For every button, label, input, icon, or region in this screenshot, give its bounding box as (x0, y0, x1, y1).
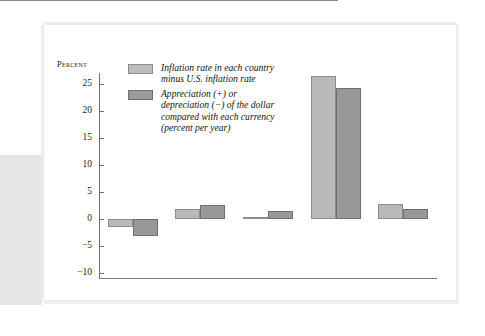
y-tick-label: 25 (66, 78, 92, 88)
y-tick-label: −5 (66, 240, 92, 250)
legend-entry-appreciation: Appreciation (+) or depreciation (−) of … (128, 88, 328, 134)
legend-entry-inflation: Inflation rate in each country minus U.S… (128, 62, 328, 85)
y-tick-mark (99, 192, 104, 193)
bar (200, 205, 225, 219)
bar (403, 209, 428, 219)
bar (378, 204, 403, 219)
light-gray-swatch-icon (128, 64, 153, 74)
y-axis-title: Percent (57, 59, 87, 69)
bar (108, 219, 133, 227)
y-tick-label: 5 (66, 186, 92, 196)
y-axis-spine (99, 73, 100, 279)
legend-label-appreciation: Appreciation (+) or depreciation (−) of … (161, 88, 275, 134)
y-tick-mark (99, 138, 104, 139)
y-tick-mark (99, 273, 104, 274)
bar (175, 209, 200, 219)
x-axis-line (99, 278, 437, 279)
y-tick-mark (99, 246, 104, 247)
legend-label-inflation: Inflation rate in each country minus U.S… (161, 62, 274, 85)
y-tick-mark (99, 111, 104, 112)
zero-baseline (0, 0, 338, 1)
y-tick-label: 10 (66, 159, 92, 169)
dark-gray-swatch-icon (128, 90, 153, 100)
y-tick-label: −10 (66, 267, 92, 277)
y-tick-label: 20 (66, 105, 92, 115)
chart-legend: Inflation rate in each country minus U.S… (128, 62, 328, 136)
page-background: Percent −10−50510152025 Inflation rate i… (0, 0, 485, 336)
bar-chart: Percent −10−50510152025 Inflation rate i… (0, 0, 485, 336)
y-tick-label: 0 (66, 213, 92, 223)
bar (268, 211, 293, 219)
y-tick-mark (99, 84, 104, 85)
bar (243, 217, 268, 219)
y-tick-mark (99, 165, 104, 166)
bar (133, 219, 158, 236)
y-tick-mark (99, 219, 104, 220)
bar (336, 88, 361, 219)
y-tick-label: 15 (66, 132, 92, 142)
